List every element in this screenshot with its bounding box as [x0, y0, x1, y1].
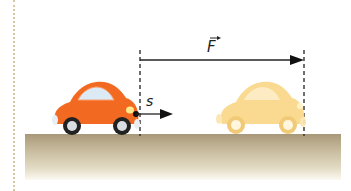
displacement-arrow [133, 109, 173, 119]
displacement-label: s [146, 93, 153, 109]
force-label: F [207, 38, 216, 56]
diagram-canvas [0, 0, 351, 191]
car-start [52, 82, 140, 135]
car-end-ghost [216, 82, 306, 134]
force-arrow [140, 55, 304, 65]
